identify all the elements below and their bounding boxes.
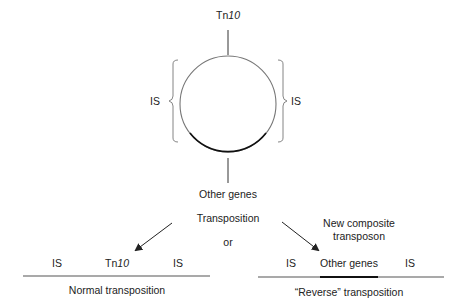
normal-left-is: IS <box>52 258 62 269</box>
tn-number: 10 <box>228 9 240 21</box>
or-label: or <box>223 237 232 248</box>
tn10-top-label: Tn10 <box>216 10 240 21</box>
transposition-label: Transposition <box>197 213 260 224</box>
left-is-bracket <box>169 60 178 142</box>
new-composite-label: New composite <box>323 218 395 229</box>
normal-right-is: IS <box>173 258 183 269</box>
reverse-caption: “Reverse” transposition <box>295 287 404 298</box>
right-is-bracket <box>278 60 287 142</box>
transposon-label: transposon <box>333 231 385 242</box>
arrow-to-reverse <box>282 222 318 250</box>
other-genes-label: Other genes <box>199 189 257 200</box>
reverse-left-is: IS <box>286 258 296 269</box>
reverse-right-is: IS <box>405 258 415 269</box>
tn-prefix: Tn <box>105 257 117 269</box>
tn-prefix: Tn <box>216 9 228 21</box>
tn-number: 10 <box>117 257 129 269</box>
diagram-canvas <box>0 0 451 307</box>
normal-caption: Normal transposition <box>69 285 165 296</box>
right-is-label: IS <box>291 96 301 107</box>
arrow-to-normal <box>136 223 172 250</box>
left-is-label: IS <box>150 96 160 107</box>
other-genes-arc <box>190 133 266 152</box>
normal-tn10: Tn10 <box>105 258 129 269</box>
reverse-other-genes: Other genes <box>320 258 378 269</box>
